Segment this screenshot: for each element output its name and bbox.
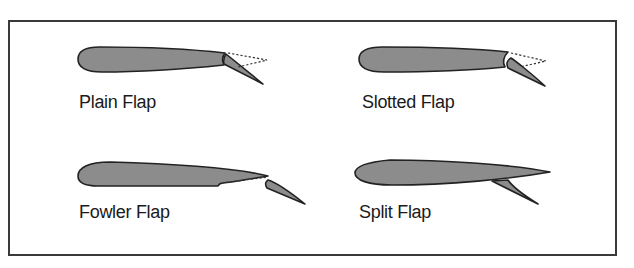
fowler-flap-wing — [78, 162, 268, 186]
split-flap-surface — [492, 180, 538, 204]
fowler-flap-surface — [266, 180, 305, 204]
split-flap-diagram — [355, 160, 550, 204]
slotted-flap-diagram — [359, 47, 546, 86]
slotted-flap-wing — [359, 47, 508, 72]
split-flap-wing — [355, 160, 550, 185]
plain-flap-label: Plain Flap — [79, 93, 156, 111]
split-flap-label: Split Flap — [359, 203, 431, 221]
fowler-flap-diagram — [78, 162, 305, 204]
plain-flap-diagram — [78, 47, 267, 84]
fowler-flap-label: Fowler Flap — [79, 203, 170, 221]
plain-flap-wing — [78, 47, 225, 72]
flap-diagrams — [0, 0, 634, 268]
slotted-flap-label: Slotted Flap — [362, 93, 454, 111]
